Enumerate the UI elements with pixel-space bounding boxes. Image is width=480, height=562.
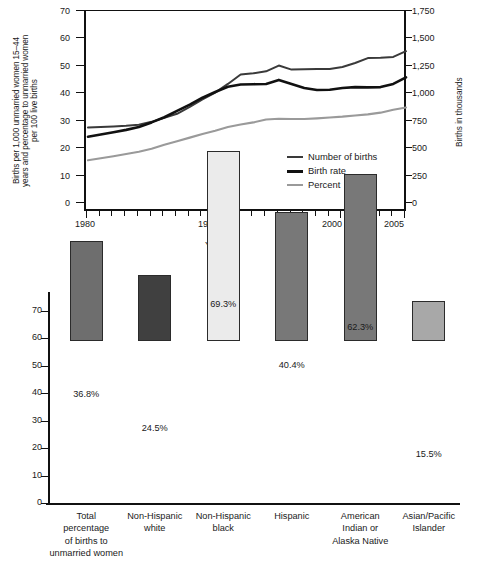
bar-chart-y-tick-label: 70 (20, 305, 42, 315)
y-axis-tick-label-left: 0 (42, 198, 70, 208)
bar-chart-y-tick-label: 0 (20, 497, 42, 507)
bar-chart-y-tick-mark (41, 338, 48, 339)
y-axis-tick-label-left: 40 (42, 88, 70, 98)
x-axis-tick-mark (200, 211, 201, 216)
bar-category-label: Asian/Pacific Islander (383, 510, 475, 535)
legend-swatch-birth-rate (287, 170, 303, 173)
bar (344, 174, 377, 341)
bar-rect (70, 241, 103, 341)
bar-chart-y-tick-label: 10 (20, 470, 42, 480)
bar-chart-figure: Percentage 010203040506070 36.8%24.5%69.… (0, 282, 480, 562)
bar-chart-y-tick-mark (41, 311, 48, 312)
bar-chart-y-tick-mark (41, 503, 48, 504)
x-axis-tick-mark (340, 211, 341, 218)
bar (70, 241, 103, 341)
bar-rect (138, 275, 171, 341)
legend-label: Percent (308, 178, 340, 192)
bar (275, 212, 308, 341)
y-axis-tick-label-right: 250 (412, 171, 446, 181)
bar-chart-y-tick-mark (41, 476, 48, 477)
x-axis-tick-mark (150, 211, 151, 216)
bar-rect (275, 212, 308, 341)
y-axis-tick-label-right: 750 (412, 116, 446, 126)
y-axis-tick-label-right: 1,000 (412, 88, 446, 98)
x-axis-tick-label: 1980 (65, 219, 105, 229)
line-chart-y-axis-label-right: Births in thousands (455, 52, 464, 172)
bar (207, 151, 240, 341)
x-axis-tick-mark (99, 211, 100, 216)
bar-chart-y-tick-label: 50 (20, 360, 42, 370)
y-axis-tick-label-left: 60 (42, 33, 70, 43)
legend-label: Birth rate (308, 164, 346, 178)
x-axis-tick-mark (315, 211, 316, 216)
legend-item-number-of-births: Number of births (287, 150, 377, 164)
bar-chart-y-tick-mark (41, 393, 48, 394)
x-axis-tick-mark (391, 211, 392, 216)
legend-swatch-percent (287, 184, 303, 186)
bar-chart-y-axis (48, 292, 50, 505)
x-axis-tick-mark (264, 211, 265, 216)
x-axis-tick-mark (251, 211, 252, 216)
bar-value-label: 62.3% (330, 322, 390, 332)
legend-label: Number of births (308, 150, 377, 164)
bar-value-label: 40.4% (262, 360, 322, 370)
x-axis-tick-mark (124, 211, 125, 216)
x-axis-tick-mark (162, 211, 163, 216)
y-axis-tick-label-right: 1,750 (412, 6, 446, 16)
y-axis-tick-label-left: 70 (42, 6, 70, 16)
y-axis-tick-label-right: 0 (412, 198, 446, 208)
bar-rect (412, 301, 445, 341)
y-axis-tick-label-left: 30 (42, 116, 70, 126)
bar-chart-x-axis (46, 503, 460, 505)
bar-value-label: 15.5% (399, 449, 459, 459)
figure-page: Births per 1,000 unmarried women 15–44 y… (0, 0, 480, 562)
x-axis-tick-label: 2005 (374, 219, 414, 229)
bar-chart-y-tick-mark (41, 421, 48, 422)
x-axis-tick-mark (86, 211, 87, 218)
y-axis-tick-label-left: 50 (42, 61, 70, 71)
bar-value-label: 36.8% (56, 389, 116, 399)
x-axis-tick-mark (137, 211, 138, 216)
bar-chart-y-tick-label: 40 (20, 387, 42, 397)
x-axis-tick-mark (175, 211, 176, 216)
bar-rect (207, 151, 240, 341)
bar-chart-y-tick-mark (41, 366, 48, 367)
legend-swatch-number-of-births (287, 156, 303, 158)
x-axis-tick-mark (111, 211, 112, 216)
y-axis-tick-label-left: 10 (42, 171, 70, 181)
bar-chart-y-tick-label: 30 (20, 415, 42, 425)
x-axis-tick-mark (188, 211, 189, 216)
y-axis-tick-label-right: 500 (412, 143, 446, 153)
bar-chart-y-tick-label: 60 (20, 332, 42, 342)
x-axis-tick-mark (404, 211, 405, 218)
line-chart-y-axis-label-left: Births per 1,000 unmarried women 15–44 y… (12, 4, 40, 218)
bar-value-label: 24.5% (125, 423, 185, 433)
x-axis-tick-mark (379, 211, 380, 216)
line-chart-figure: Births per 1,000 unmarried women 15–44 y… (0, 0, 480, 262)
bar-rect (344, 174, 377, 341)
y-axis-tick-label-right: 1,250 (412, 61, 446, 71)
series-line-birth-rate (88, 77, 406, 136)
x-axis-tick-mark (328, 211, 329, 216)
bar (138, 275, 171, 341)
bar-value-label: 69.3% (193, 299, 253, 309)
bar (412, 301, 445, 341)
bar-chart-y-tick-mark (41, 448, 48, 449)
y-axis-tick-label-right: 1,500 (412, 33, 446, 43)
y-axis-tick-label-left: 20 (42, 143, 70, 153)
bar-chart-y-tick-label: 20 (20, 442, 42, 452)
